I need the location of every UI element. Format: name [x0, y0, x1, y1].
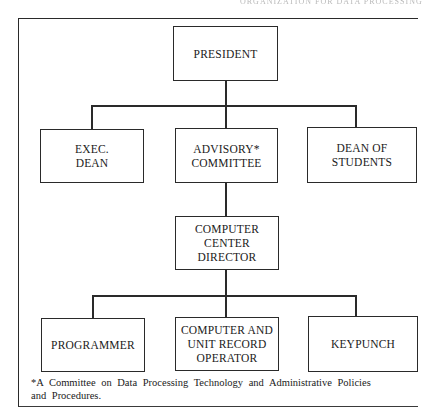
footnote-line-2: and Procedures.	[31, 389, 421, 402]
footnote: *A Committee on Data Processing Technolo…	[31, 376, 421, 402]
connector-to-programmer	[92, 295, 94, 318]
connector-to-operator	[225, 295, 227, 318]
connector-to-advisory	[225, 105, 227, 129]
connector-director-down	[225, 269, 227, 296]
node-dean-of-students: DEAN OF STUDENTS	[307, 127, 417, 183]
node-keypunch: KEYPUNCH	[308, 316, 418, 372]
running-header: ORGANIZATION FOR DATA PROCESSING	[240, 0, 426, 6]
connector-to-exec-dean	[91, 105, 93, 129]
node-computer-unit-record-operator: COMPUTER AND UNIT RECORD OPERATOR	[175, 317, 279, 371]
connector-to-dean-students	[355, 105, 357, 128]
node-president: PRESIDENT	[173, 26, 278, 81]
footnote-line-1: *A Committee on Data Processing Technolo…	[31, 376, 421, 389]
node-exec-dean: EXEC. DEAN	[40, 129, 144, 183]
connector-president-down	[225, 80, 227, 106]
connector-advisory-to-director	[225, 182, 227, 216]
connector-level4-bus	[92, 295, 356, 297]
connector-to-keypunch	[355, 295, 357, 318]
node-advisory-committee: ADVISORY* COMMITTEE	[175, 128, 278, 183]
node-programmer: PROGRAMMER	[41, 318, 145, 372]
connector-level2-bus	[91, 105, 356, 107]
node-computer-center-director: COMPUTER CENTER DIRECTOR	[175, 216, 279, 270]
